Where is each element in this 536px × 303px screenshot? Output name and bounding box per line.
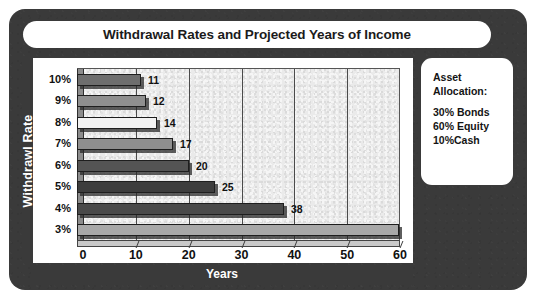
- x-tick-mark: [347, 241, 351, 248]
- y-tick-label: 7%: [31, 133, 75, 155]
- figure-frame: Withdrawal Rates and Projected Years of …: [9, 9, 527, 290]
- x-axis-label: Years: [206, 267, 238, 281]
- y-tick-label: 4%: [31, 197, 75, 219]
- x-axis-label-band: Years: [31, 265, 413, 282]
- bar: [77, 181, 215, 193]
- x-tick-label: 60: [393, 248, 407, 262]
- asset-allocation-heading: AssetAllocation:: [433, 70, 513, 98]
- x-tick-mark: [400, 241, 404, 248]
- x-tick-label: 10: [129, 248, 143, 262]
- bar: [77, 160, 189, 172]
- y-tick-label: 8%: [31, 111, 75, 133]
- bar-row: 12: [77, 95, 399, 107]
- y-tick-label: 9%: [31, 90, 75, 112]
- bar-row: 17: [77, 138, 399, 150]
- y-tick-label: 10%: [31, 68, 75, 90]
- bar: [77, 203, 284, 215]
- plot-area: 11121417202538: [77, 68, 400, 240]
- bar-series: 11121417202538: [77, 69, 399, 240]
- y-axis-label: Withdrawl Rate: [21, 114, 35, 207]
- x-tick-label: 0: [80, 248, 87, 262]
- bar: [77, 117, 157, 129]
- asset-allocation-item: 60% Equity: [433, 119, 513, 133]
- x-tick-label: 40: [287, 248, 301, 262]
- x-tick-label: 20: [182, 248, 196, 262]
- bar: [77, 138, 173, 150]
- page-title: Withdrawal Rates and Projected Years of …: [103, 27, 411, 42]
- x-tick-mark: [241, 241, 245, 248]
- asset-allocation-heading-line: Allocation:: [433, 84, 513, 98]
- bar-row: 20: [77, 160, 399, 172]
- x-tick-label: 30: [235, 248, 249, 262]
- asset-allocation-item: 30% Bonds: [433, 105, 513, 119]
- asset-allocation-heading-line: Asset: [433, 70, 513, 84]
- bar-value-label: 14: [164, 117, 176, 129]
- x-tick-mark: [188, 241, 192, 248]
- y-axis-label-band: Withdrawl Rate: [22, 58, 33, 263]
- y-axis-tick-labels: 10%9%8%7%6%5%4%3%: [31, 68, 75, 240]
- x-tick-label: 50: [340, 248, 354, 262]
- x-tick-mark: [294, 241, 298, 248]
- asset-allocation-box: AssetAllocation: 30% Bonds60% Equity10%C…: [421, 58, 513, 185]
- bar: [77, 74, 141, 86]
- asset-allocation-items: 30% Bonds60% Equity10%Cash: [433, 105, 513, 147]
- x-tick-mark: [135, 241, 139, 248]
- x-axis-tick-labels: 0102030405060: [77, 248, 400, 266]
- y-tick-label: 5%: [31, 176, 75, 198]
- bar: [77, 95, 146, 107]
- bar-value-label: 25: [222, 181, 234, 193]
- asset-allocation-item: 10%Cash: [433, 133, 513, 147]
- bar-value-label: 12: [153, 95, 165, 107]
- bar-row: [77, 224, 399, 236]
- bar-value-label: 11: [148, 74, 159, 86]
- x-axis-bar: [77, 240, 400, 247]
- bar-row: 25: [77, 181, 399, 193]
- bar: [77, 224, 399, 236]
- y-tick-label: 6%: [31, 154, 75, 176]
- bar-row: 38: [77, 203, 399, 215]
- y-tick-label: 3%: [31, 219, 75, 241]
- bar-value-label: 17: [180, 138, 192, 150]
- bar-row: 14: [77, 117, 399, 129]
- chart-panel: 10%9%8%7%6%5%4%3% 11121417202538 0102030…: [31, 58, 413, 263]
- chart-title-pill: Withdrawal Rates and Projected Years of …: [23, 21, 491, 48]
- bar-row: 11: [77, 74, 399, 86]
- bar-value-label: 20: [196, 160, 208, 172]
- bar-value-label: 38: [291, 203, 303, 215]
